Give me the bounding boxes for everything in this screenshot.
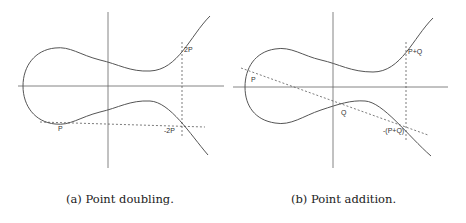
elliptic-curve-addition-diagram: P Q P+Q -(P+Q) <box>233 0 466 180</box>
secant-line <box>241 68 428 135</box>
label-neg-p-plus-q: -(P+Q) <box>383 127 404 135</box>
label-neg-2p: -2P <box>164 127 175 134</box>
label-2p: 2P <box>184 46 193 53</box>
label-p: P <box>58 125 63 132</box>
caption-point-addition: (b) Point addition. <box>291 192 396 206</box>
caption-point-doubling: (a) Point doubling. <box>66 192 174 206</box>
label-q: Q <box>341 109 347 117</box>
figure-point-doubling: P 2P -2P <box>0 0 233 180</box>
label-p-plus-q: P+Q <box>408 48 423 56</box>
elliptic-curve-doubling-diagram: P 2P -2P <box>0 0 233 180</box>
label-p: P <box>251 76 256 83</box>
tangent-line <box>40 122 205 127</box>
figure-point-addition: P Q P+Q -(P+Q) <box>233 0 466 180</box>
